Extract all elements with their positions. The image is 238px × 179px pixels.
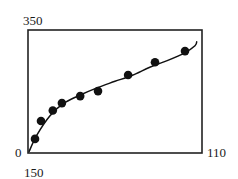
fit-curve (29, 41, 197, 152)
data-point (49, 106, 58, 115)
data-point (31, 135, 40, 144)
data-point (124, 71, 133, 80)
x-axis-right-label: 110 (207, 145, 226, 160)
data-point (94, 87, 103, 96)
data-point (37, 117, 46, 126)
chart: 350 0 150 110 (0, 0, 238, 179)
data-point (151, 58, 160, 67)
data-point (76, 92, 85, 101)
chart-canvas: 350 0 150 110 (0, 0, 238, 179)
plot-frame (28, 30, 202, 153)
fit-curve-line (29, 41, 197, 152)
data-point (181, 47, 190, 56)
y-axis-max-label: 350 (23, 13, 43, 28)
x-axis-left-label: 150 (24, 165, 44, 179)
y-axis-min-label: 0 (15, 145, 22, 160)
data-point (58, 99, 67, 108)
